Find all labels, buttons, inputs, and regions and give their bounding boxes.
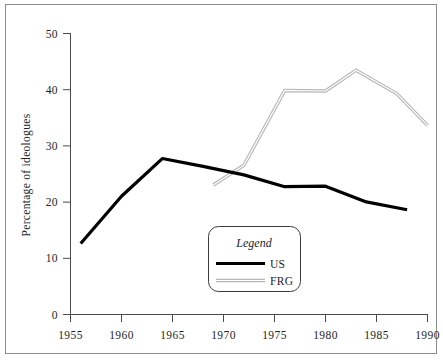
legend-title: Legend	[235, 236, 272, 250]
chart-page: 50 40 30 20 10 0 1955 1960 1965 1970 197…	[0, 0, 443, 362]
y-tick-marks	[63, 34, 71, 315]
legend: Legend US FRG	[209, 227, 301, 292]
x-tick-label-1970: 1970	[211, 329, 236, 341]
x-tick-label-1990: 1990	[415, 329, 440, 341]
x-tick-label-1955: 1955	[58, 329, 83, 341]
y-tick-label-0: 0	[52, 309, 58, 321]
y-tick-label-50: 50	[46, 28, 58, 40]
x-tick-label-1975: 1975	[262, 329, 287, 341]
y-tick-label-40: 40	[46, 84, 58, 96]
legend-label-frg: FRG	[270, 275, 293, 287]
x-tick-label-1980: 1980	[313, 329, 338, 341]
y-tick-label-20: 20	[46, 196, 58, 208]
x-tick-marks	[71, 315, 428, 323]
series-line-frg-core	[213, 70, 427, 185]
line-chart: 50 40 30 20 10 0 1955 1960 1965 1970 197…	[0, 0, 443, 362]
y-tick-label-10: 10	[46, 252, 58, 264]
y-tick-label-30: 30	[46, 140, 58, 152]
x-tick-label-1965: 1965	[160, 329, 185, 341]
legend-label-us: US	[270, 258, 285, 270]
x-tick-label-1985: 1985	[364, 329, 389, 341]
series-line-frg	[213, 70, 427, 185]
x-tick-label-1960: 1960	[109, 329, 134, 341]
y-axis-title: Percentage of ideologues	[20, 113, 33, 236]
